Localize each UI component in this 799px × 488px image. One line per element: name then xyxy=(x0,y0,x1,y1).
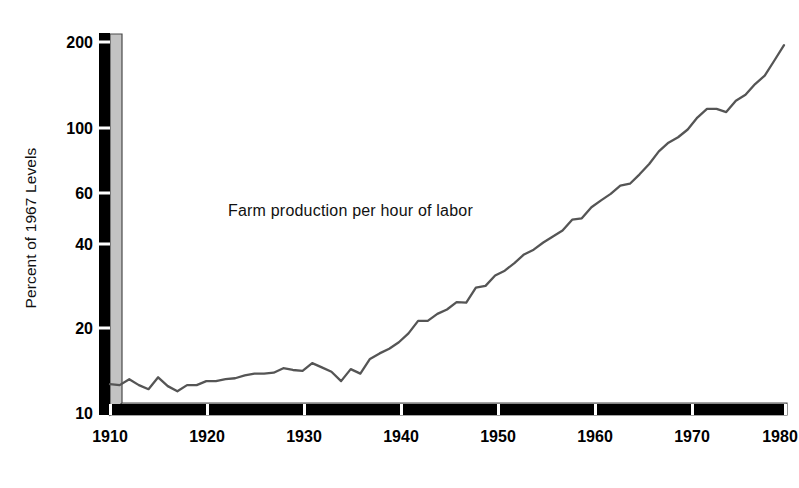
x-tick-1950 xyxy=(497,404,500,415)
y-tick-label-100: 100 xyxy=(66,120,93,137)
y-tick-100 xyxy=(99,127,110,130)
y-tick-label-40: 40 xyxy=(75,236,93,253)
x-tick-label-1910: 1910 xyxy=(92,428,128,445)
x-tick-1960 xyxy=(594,404,597,415)
x-tick-1930 xyxy=(303,404,306,415)
y-tick-label-20: 20 xyxy=(75,320,93,337)
y-tick-40 xyxy=(99,243,110,246)
y-tick-60 xyxy=(99,192,110,195)
y-tick-label-60: 60 xyxy=(75,185,93,202)
x-tick-label-1940: 1940 xyxy=(383,428,419,445)
x-tick-label-1980: 1980 xyxy=(762,428,798,445)
x-tick-label-1950: 1950 xyxy=(480,428,516,445)
farm-production-line-chart: 200 100 60 40 20 10 1910 1920 1930 1940 … xyxy=(0,0,799,488)
x-tick-label-1920: 1920 xyxy=(189,428,225,445)
y-axis-bevel-band xyxy=(110,34,122,415)
y-tick-label-10: 10 xyxy=(75,405,93,422)
x-tick-label-1930: 1930 xyxy=(286,428,322,445)
chart-figure: 200 100 60 40 20 10 1910 1920 1930 1940 … xyxy=(0,0,799,488)
x-axis-bar xyxy=(99,404,787,415)
y-axis-title: Percent of 1967 Levels xyxy=(22,147,39,308)
y-tick-200 xyxy=(99,41,110,44)
y-axis-bar xyxy=(99,33,110,415)
x-tick-label-1960: 1960 xyxy=(577,428,613,445)
x-tick-1920 xyxy=(206,404,209,415)
y-tick-20 xyxy=(99,327,110,330)
x-tick-1940 xyxy=(400,404,403,415)
y-tick-label-200: 200 xyxy=(66,34,93,51)
series-label: Farm production per hour of labor xyxy=(228,202,473,219)
x-tick-label-1970: 1970 xyxy=(674,428,710,445)
x-tick-1980 xyxy=(784,404,787,415)
x-tick-1970 xyxy=(691,404,694,415)
x-tick-1910 xyxy=(109,404,112,415)
